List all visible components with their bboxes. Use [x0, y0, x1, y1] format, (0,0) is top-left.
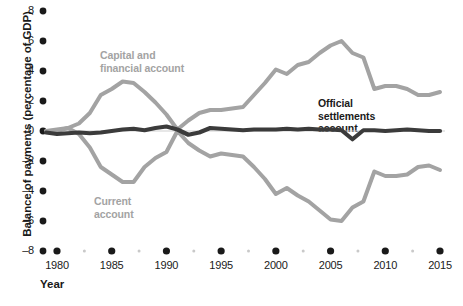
y-tick-label: 4 — [12, 64, 34, 76]
y-tick-label: –8 — [12, 244, 34, 256]
balance-of-payments-chart: Balance of payments (percentage of GDP) … — [0, 0, 463, 306]
y-tick-dot — [40, 38, 47, 45]
y-tick-dot — [40, 188, 47, 195]
y-tick-label: 8 — [12, 4, 34, 16]
y-tick-label: 0 — [12, 124, 34, 136]
y-tick-dot — [40, 218, 47, 225]
y-tick-dot — [40, 8, 47, 15]
y-tick-dot — [40, 158, 47, 165]
y-tick-label: –6 — [12, 214, 34, 226]
x-minor-tick-dot — [302, 250, 305, 253]
y-tick-label: –2 — [12, 154, 34, 166]
x-tick-dot — [327, 247, 334, 254]
x-tick-dot — [436, 247, 443, 254]
y-tick-label: –4 — [12, 184, 34, 196]
x-minor-tick-dot — [83, 250, 86, 253]
x-tick-label: 2005 — [309, 259, 353, 271]
x-tick-dot — [108, 247, 115, 254]
x-minor-tick-dot — [247, 250, 250, 253]
x-tick-label: 1980 — [35, 259, 79, 271]
x-tick-label: 1990 — [144, 259, 188, 271]
x-tick-dot — [163, 247, 170, 254]
series-line-capital-and-financial-account — [46, 41, 440, 131]
x-tick-label: 1985 — [90, 259, 134, 271]
series-line-current-account — [46, 128, 440, 221]
x-tick-dot — [218, 247, 225, 254]
x-minor-tick-dot — [356, 250, 359, 253]
x-tick-label: 1995 — [199, 259, 243, 271]
x-tick-label: 2010 — [363, 259, 407, 271]
y-tick-label: 2 — [12, 94, 34, 106]
x-minor-tick-dot — [192, 250, 195, 253]
x-minor-tick-dot — [138, 250, 141, 253]
x-tick-dot — [382, 247, 389, 254]
x-tick-dot — [272, 247, 279, 254]
x-tick-label: 2000 — [254, 259, 298, 271]
y-tick-dot — [40, 68, 47, 75]
x-minor-tick-dot — [411, 250, 414, 253]
x-tick-dot — [53, 247, 60, 254]
y-tick-dot — [40, 98, 47, 105]
x-tick-label: 2015 — [418, 259, 462, 271]
y-tick-label: 6 — [12, 34, 34, 46]
y-tick-dot — [40, 248, 47, 255]
series-line-official-settlements-account — [46, 127, 440, 140]
